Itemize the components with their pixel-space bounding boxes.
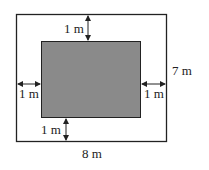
width-label: 8 m (82, 146, 102, 161)
garden-diagram: 1 m 1 m 1 m 1 m 7 m 8 m (0, 0, 209, 170)
bottom-margin-label: 1 m (41, 122, 61, 137)
right-margin-label: 1 m (144, 86, 164, 101)
height-label: 7 m (172, 63, 192, 78)
top-margin-label: 1 m (64, 21, 84, 36)
left-margin-label: 1 m (19, 86, 39, 101)
inner-shaded-rectangle (42, 42, 141, 118)
